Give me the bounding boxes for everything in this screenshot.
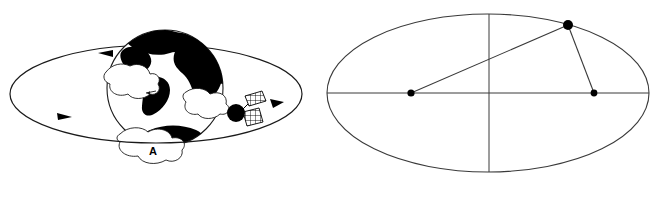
satellite-body [227, 104, 245, 122]
panel-a-drawing [0, 0, 325, 199]
landmass-east-bulge [212, 51, 239, 84]
point-p2-focus [591, 90, 598, 97]
solar-panel-left [245, 91, 266, 106]
orbit-arrow-top-icon [98, 50, 113, 57]
solar-panel-right [243, 108, 263, 126]
orbit-arrow-right-icon [270, 99, 284, 108]
panel-b-ellipse: Major axis Minor axis P P1 P2 B [325, 0, 650, 199]
panel-a-satellite-orbit: A [0, 0, 325, 199]
panel-a-label: A [149, 145, 157, 157]
point-p [563, 20, 573, 30]
orbit-arrow-bottom-left-icon [57, 113, 72, 120]
radius-p-to-p2 [568, 25, 594, 93]
panel-b-drawing [325, 0, 650, 199]
figure-root: A Major axis Minor axis P P1 P2 B [0, 0, 650, 199]
point-p1-focus [407, 89, 414, 96]
satellite [227, 91, 266, 126]
